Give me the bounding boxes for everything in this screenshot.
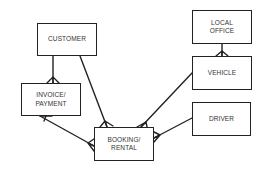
edge-vehicle-booking bbox=[141, 73, 192, 127]
edge-invoice-booking bbox=[40, 116, 94, 146]
entity-local-office: LOCAL OFFICE bbox=[192, 10, 252, 44]
entity-vehicle: VEHICLE bbox=[192, 56, 252, 90]
crows-foot-icon bbox=[154, 132, 160, 142]
entity-invoice-payment: INVOICE/ PAYMENT bbox=[21, 83, 81, 116]
entity-booking-rental: BOOKING/ RENTAL bbox=[94, 127, 154, 161]
edge-customer-booking bbox=[80, 56, 107, 127]
entity-driver: DRIVER bbox=[192, 102, 251, 136]
entity-customer: CUSTOMER bbox=[37, 23, 97, 56]
